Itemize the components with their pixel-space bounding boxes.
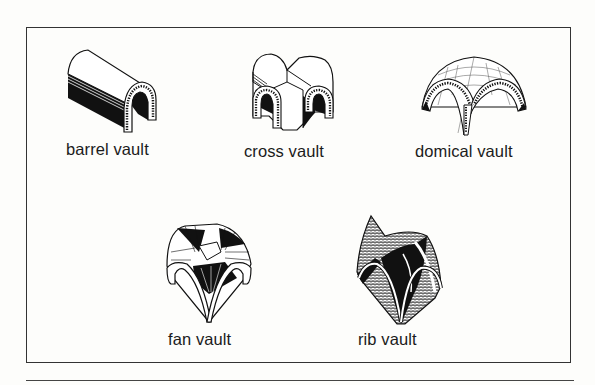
label-domical-vault: domical vault [415,142,513,161]
label-fan-vault: fan vault [168,330,231,349]
fan-vault-illustration [165,222,253,324]
label-rib-vault: rib vault [358,330,417,349]
barrel-vault-illustration [66,48,158,134]
rib-vault-illustration [355,214,445,326]
cross-vault-icon [249,52,335,134]
domical-vault-icon [418,55,528,137]
fan-vault-icon [165,222,253,324]
rib-vault-icon [355,214,445,326]
domical-vault-illustration [418,55,528,137]
bottom-rule [26,380,574,381]
label-cross-vault: cross vault [244,142,324,161]
cross-vault-illustration [249,52,335,134]
label-barrel-vault: barrel vault [66,140,149,159]
barrel-vault-icon [66,48,158,134]
